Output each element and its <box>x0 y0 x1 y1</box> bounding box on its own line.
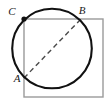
point-a-label: A <box>13 72 21 84</box>
figure-canvas: A B C <box>0 0 112 105</box>
geometry-figure: A B C <box>0 0 112 105</box>
point-b-label: B <box>79 4 86 16</box>
dashed-diameter-line <box>24 20 81 79</box>
point-c-marker <box>21 16 26 21</box>
point-c-label: C <box>8 5 16 17</box>
